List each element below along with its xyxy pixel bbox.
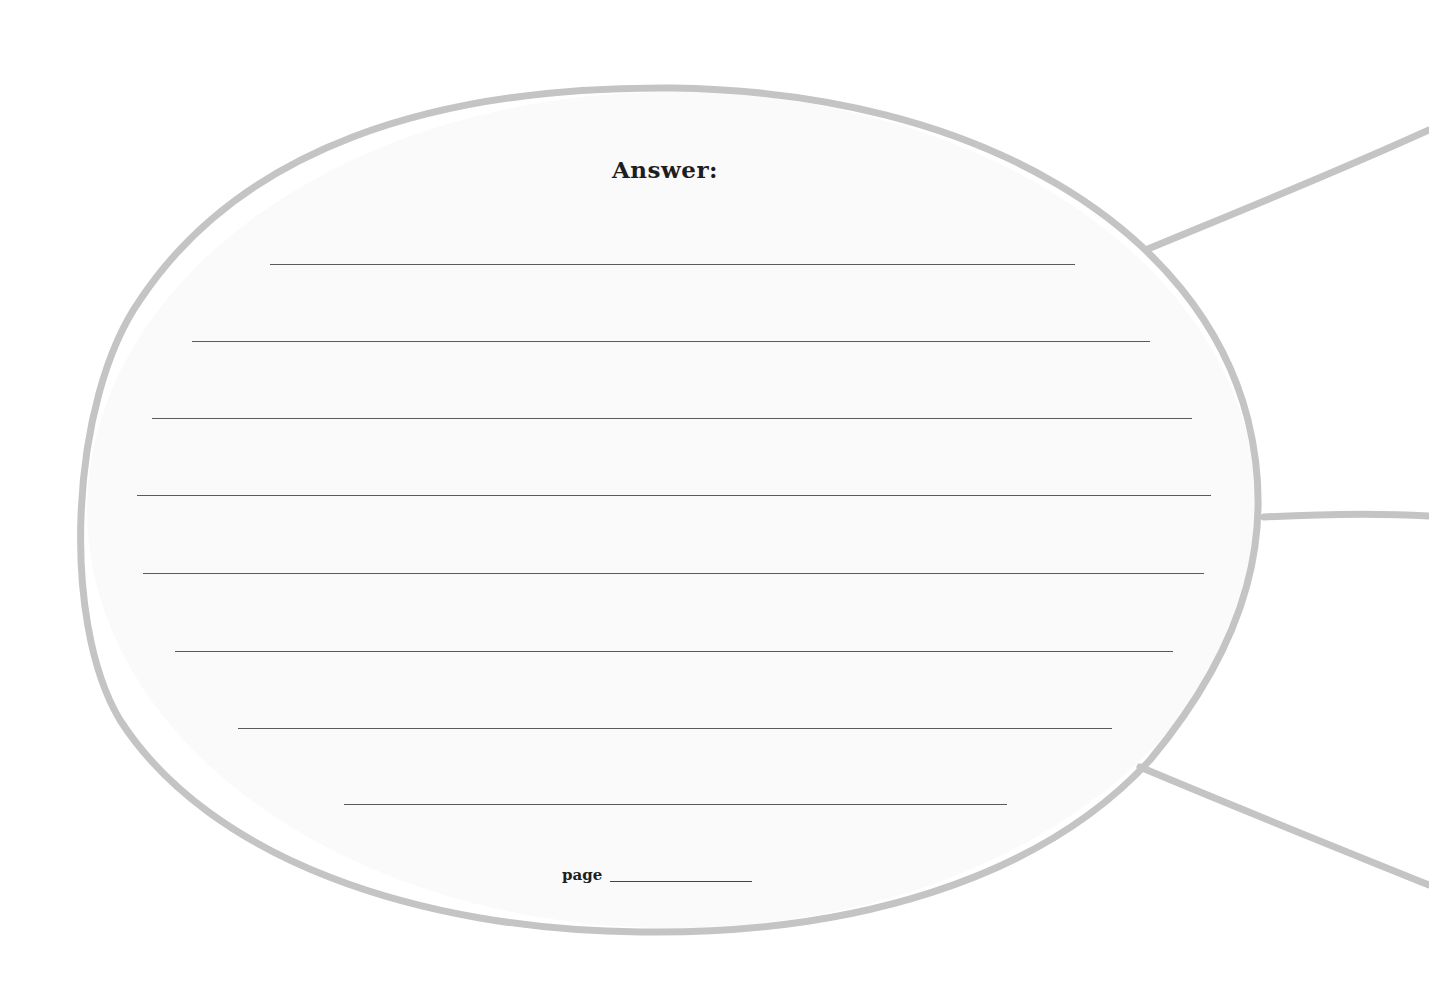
answer-line-4[interactable] <box>137 495 1211 496</box>
answer-line-5[interactable] <box>143 573 1204 574</box>
page-number-field[interactable] <box>610 881 752 882</box>
page-label: page <box>562 866 602 884</box>
answer-line-7[interactable] <box>238 728 1112 729</box>
connector-lower-right <box>1140 767 1429 885</box>
bubble-fill <box>87 92 1257 928</box>
connector-upper-right <box>1148 130 1429 249</box>
answer-line-3[interactable] <box>152 418 1192 419</box>
connector-middle-right <box>1264 514 1429 517</box>
answer-line-6[interactable] <box>175 651 1173 652</box>
answer-line-2[interactable] <box>192 341 1150 342</box>
answer-bubble-graphic <box>0 0 1429 987</box>
answer-worksheet: Answer: page <box>0 0 1429 987</box>
answer-line-8[interactable] <box>344 804 1007 805</box>
answer-line-1[interactable] <box>270 264 1075 265</box>
answer-heading: Answer: <box>560 156 770 183</box>
